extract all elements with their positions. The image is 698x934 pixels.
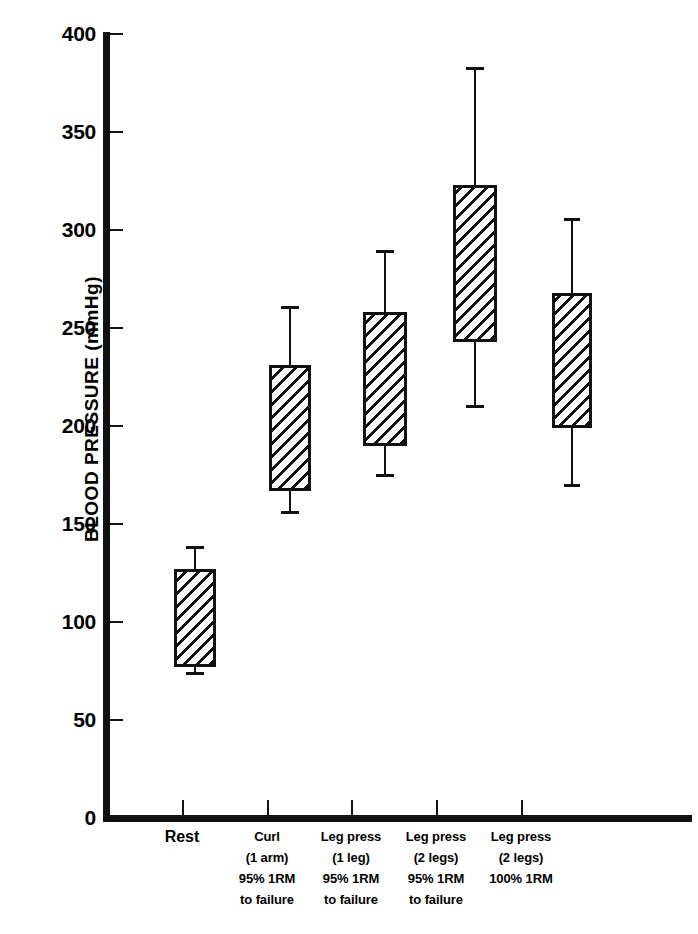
box-plot-item	[363, 0, 407, 934]
y-axis-tick-mark	[110, 621, 123, 623]
y-axis-tick-label: 350	[24, 120, 96, 142]
upper-whisker-cap	[186, 546, 204, 549]
x-axis-category-label-line: Leg press	[461, 826, 581, 847]
x-axis-category-label-line: to failure	[376, 889, 496, 910]
y-axis-tick-label: 100	[24, 610, 96, 632]
lower-whisker-cap	[281, 511, 299, 514]
box-rect	[269, 365, 311, 490]
y-axis-tick-label-text: 150	[32, 512, 96, 536]
upper-whisker-line	[194, 546, 196, 570]
lower-whisker-cap	[186, 672, 204, 675]
x-axis-category-label: Leg press(2 legs)100% 1RM	[461, 826, 581, 889]
box-plot-item	[269, 0, 311, 934]
plot-area: 400350300250200150100500 RestCurl(1 arm)…	[0, 0, 698, 934]
y-axis-tick-label-text: 200	[32, 414, 96, 438]
x-axis-tick-mark	[521, 800, 523, 815]
upper-whisker-line	[289, 306, 291, 365]
y-axis-tick-label: 250	[24, 316, 96, 338]
lower-whisker-line	[384, 446, 386, 477]
y-axis-tick-label: 300	[24, 218, 96, 240]
blood-pressure-box-plot-figure: BLOOD PRESSURE (mmHg) 400350300250200150…	[0, 0, 698, 934]
lower-whisker-cap	[466, 405, 484, 408]
box-plot-item	[174, 0, 216, 934]
y-axis-tick-label-text: 350	[32, 120, 96, 144]
y-axis-line	[103, 32, 110, 822]
y-axis-tick-label: 0	[24, 806, 96, 828]
lower-whisker-line	[571, 428, 573, 487]
y-axis-tick-mark	[110, 523, 123, 525]
upper-whisker-line	[384, 250, 386, 313]
x-axis-tick-mark	[351, 800, 353, 815]
box-plot-item	[453, 0, 497, 934]
y-axis-tick-label-text: 300	[32, 218, 96, 242]
y-axis-tick-label: 150	[24, 512, 96, 534]
y-axis-tick-mark	[110, 327, 123, 329]
box-rect	[552, 293, 592, 428]
upper-whisker-cap	[376, 250, 394, 253]
box-rect	[363, 312, 407, 445]
y-axis-tick-mark	[110, 425, 123, 427]
upper-whisker-cap	[281, 306, 299, 309]
box-plot-item	[552, 0, 592, 934]
y-axis-tick-mark	[110, 229, 123, 231]
y-axis-tick-label-text: 250	[32, 316, 96, 340]
y-axis-tick-mark	[110, 33, 123, 35]
x-axis-tick-mark	[436, 800, 438, 815]
y-axis-tick-mark	[110, 817, 123, 819]
upper-whisker-line	[571, 218, 573, 292]
y-axis-tick-label: 200	[24, 414, 96, 436]
x-axis-category-label-line: 100% 1RM	[461, 868, 581, 889]
y-axis-tick-label-text: 0	[32, 806, 96, 830]
y-axis-tick-label: 400	[24, 22, 96, 44]
y-axis-tick-mark	[110, 131, 123, 133]
upper-whisker-cap	[564, 218, 581, 221]
lower-whisker-cap	[564, 484, 581, 487]
y-axis-tick-label: 50	[24, 708, 96, 730]
y-axis-tick-label-text: 100	[32, 610, 96, 634]
lower-whisker-line	[474, 342, 476, 409]
y-axis-tick-mark	[110, 719, 123, 721]
box-rect	[453, 185, 497, 342]
upper-whisker-line	[474, 67, 476, 185]
x-axis-category-label-line: (2 legs)	[461, 847, 581, 868]
lower-whisker-cap	[376, 474, 394, 477]
upper-whisker-cap	[466, 67, 484, 70]
box-rect	[174, 569, 216, 667]
y-axis-tick-label-text: 400	[32, 22, 96, 46]
y-axis-tick-label-text: 50	[32, 708, 96, 732]
